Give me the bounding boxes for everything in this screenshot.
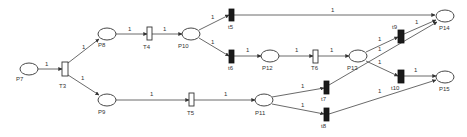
weight-t10-p15: 1 — [414, 67, 418, 73]
weight-t6-p13: 1 — [330, 47, 334, 53]
arc-t3-p8 — [68, 39, 99, 63]
weight-t4-p10: 1 — [163, 26, 167, 32]
place-p14[interactable] — [436, 10, 454, 22]
place-label-p14: P14 — [439, 25, 450, 31]
place-p10[interactable] — [182, 28, 200, 40]
transition-t10[interactable] — [398, 70, 404, 83]
weight-p11-t8: 1 — [301, 102, 305, 108]
transition-t7[interactable] — [324, 81, 329, 94]
transition-label-t6: t6 — [228, 65, 234, 71]
place-label-p12: P12 — [262, 65, 273, 71]
weight-p8-t4: 1 — [128, 26, 132, 32]
transition-t9[interactable] — [398, 30, 404, 43]
place-label-p9: P9 — [98, 109, 106, 115]
place-label-p7: P7 — [16, 76, 24, 82]
weight-p7-t3: 1 — [45, 61, 49, 67]
transition-t6[interactable] — [229, 50, 234, 63]
transition-label-T5: T5 — [187, 110, 195, 116]
place-p12[interactable] — [261, 50, 279, 62]
place-label-p15: P15 — [439, 86, 450, 92]
weight-p11-t7: 1 — [301, 83, 305, 89]
place-p7[interactable] — [20, 63, 38, 75]
weight-t6-p12: 1 — [246, 47, 250, 53]
transition-label-t7: t7 — [321, 96, 327, 102]
arc-p13-t10 — [366, 61, 398, 76]
transition-t4[interactable] — [147, 27, 152, 40]
arc-t8-p15 — [329, 80, 436, 114]
weight-t5-p14: 1 — [331, 7, 335, 13]
weight-p13-t9: 1 — [378, 36, 382, 42]
transition-label-T6: T6 — [311, 65, 319, 71]
transition-t5[interactable] — [229, 9, 234, 21]
transition-label-t10: t10 — [391, 85, 400, 91]
place-p11[interactable] — [255, 94, 273, 106]
transition-label-t4: T4 — [143, 44, 151, 50]
weight-p13-t10: 1 — [378, 59, 382, 65]
transition-label-t5: t5 — [228, 24, 234, 30]
weight-t7-p14: 1 — [378, 46, 382, 52]
place-p13[interactable] — [349, 50, 367, 62]
place-p8[interactable] — [98, 28, 116, 40]
weight-p9-t5: 1 — [150, 91, 154, 97]
arc-t7-p14 — [329, 22, 437, 85]
transition-label-t8: t8 — [321, 123, 327, 129]
weight-p10-t5: 1 — [211, 14, 215, 20]
petri-net-diagram: 1 1 1 1 1 1 1 1 1 1 1 1 1 1 1 1 1 1 1 1 … — [0, 0, 467, 137]
weight-t3-p9: 1 — [81, 75, 85, 81]
place-label-p8: P8 — [98, 42, 106, 48]
weight-t5-p11: 1 — [224, 91, 228, 97]
arc-p13-t9 — [366, 37, 398, 52]
weight-t9-p14: 1 — [415, 19, 419, 25]
transition-t3[interactable] — [62, 62, 68, 76]
weight-p12-t6: 1 — [295, 47, 299, 53]
place-label-p10: P10 — [178, 43, 189, 49]
transition-T6[interactable] — [313, 50, 318, 63]
transition-label-t3: T3 — [59, 83, 67, 89]
transition-t8[interactable] — [324, 108, 329, 121]
weight-t8-p15: 1 — [378, 88, 382, 94]
place-label-p13: P13 — [347, 65, 358, 71]
place-label-p11: P11 — [255, 110, 266, 116]
place-p15[interactable] — [436, 71, 454, 83]
arc-p11-t8 — [272, 104, 324, 114]
transition-label-t9: t9 — [392, 24, 398, 30]
arc-p11-t7 — [272, 88, 324, 97]
weight-p10-t6: 1 — [211, 39, 215, 45]
place-p9[interactable] — [98, 94, 116, 106]
transition-T5[interactable] — [189, 93, 194, 106]
